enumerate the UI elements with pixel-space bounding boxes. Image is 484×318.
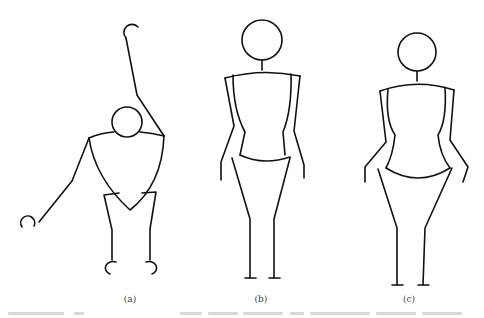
figure-c-torso-left — [386, 89, 395, 168]
figure-a-lowered-arm — [39, 138, 89, 222]
figure-c-head — [398, 33, 436, 71]
figure-a-left-leg — [104, 193, 119, 260]
figure-a-lowered-hand — [21, 216, 35, 227]
cropped-caption-line — [0, 310, 484, 318]
panel-label-b: (b) — [255, 294, 268, 304]
figure-a-raised-arm — [126, 38, 164, 136]
figure-c-hips — [378, 168, 452, 285]
figure-a-right-leg — [142, 192, 156, 260]
figure-b-right-arm — [294, 76, 304, 178]
figure-b-head — [242, 20, 282, 60]
figure-canvas — [0, 0, 484, 318]
figure-a-torso — [89, 136, 164, 210]
figure-c — [365, 33, 468, 285]
figure-c-waist — [386, 168, 450, 178]
figure-a-right-foot — [146, 261, 157, 274]
figure-b-torso-right — [283, 74, 291, 155]
figure-a-left-foot — [105, 261, 116, 274]
figure-c-shoulders — [380, 84, 454, 91]
figure-c-left-arm — [365, 91, 386, 182]
figure-b-torso-left — [233, 75, 245, 155]
figure-b-waist — [240, 155, 290, 161]
panel-label-a: (a) — [124, 294, 136, 304]
figure-a — [21, 24, 164, 274]
figure-b — [221, 20, 304, 278]
figure-a-raised-hand — [124, 24, 138, 38]
figure-b-shoulders — [225, 72, 300, 78]
figure-b-left-arm — [221, 78, 234, 180]
figure-c-torso-right — [438, 88, 450, 168]
figure-b-hips — [232, 158, 290, 278]
panel-label-c: (c) — [403, 294, 415, 304]
figure-a-head — [112, 107, 142, 137]
